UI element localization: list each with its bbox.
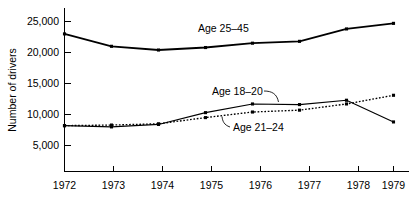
annotation-age-18-20: Age 18–20	[212, 85, 279, 102]
data-point-marker	[204, 116, 207, 119]
x-tick-label-1973: 1973	[102, 179, 126, 191]
data-point-marker	[251, 42, 254, 45]
x-tick-label-1977: 1977	[298, 179, 322, 191]
annotation-age-25-45: Age 25–45	[198, 22, 249, 34]
data-point-marker	[157, 122, 160, 125]
data-point-marker	[298, 109, 301, 112]
line-chart-figure: 5,000 10,000 15,000 20,000 25,000 1972 1…	[0, 0, 419, 203]
annotation-leader-age-18-20	[264, 91, 279, 102]
x-tick-label-1974: 1974	[151, 179, 175, 191]
chart-canvas: 5,000 10,000 15,000 20,000 25,000 1972 1…	[0, 0, 419, 203]
y-tick-label-5000: 5,000	[33, 139, 59, 151]
x-tick-label-1979: 1979	[382, 179, 406, 191]
data-point-marker	[157, 48, 160, 51]
data-point-marker	[298, 103, 301, 106]
data-point-marker	[110, 45, 113, 48]
data-point-marker	[204, 46, 207, 49]
series-layer	[63, 22, 395, 129]
x-tick-labels: 1972 1973 1974 1975 1976 1977 1978 1979	[53, 179, 406, 191]
data-point-marker	[392, 22, 395, 25]
annotation-label-age-25-45: Age 25–45	[198, 22, 249, 34]
data-point-marker	[63, 124, 66, 127]
series-line	[65, 100, 394, 127]
data-point-marker	[63, 32, 66, 35]
annotation-leader-age-21-24	[222, 117, 230, 128]
y-tick-label-10000: 10,000	[27, 108, 59, 120]
data-point-marker	[298, 40, 301, 43]
x-tick-label-1972: 1972	[53, 179, 77, 191]
data-point-marker	[110, 123, 113, 126]
annotation-label-age-18-20: Age 18–20	[212, 85, 263, 97]
series-line	[65, 95, 394, 125]
x-tick-label-1975: 1975	[200, 179, 224, 191]
y-tick-label-25000: 25,000	[27, 15, 59, 27]
data-point-marker	[251, 102, 254, 105]
data-point-marker	[251, 110, 254, 113]
data-point-marker	[345, 27, 348, 30]
x-tick-label-1976: 1976	[249, 179, 273, 191]
data-point-marker	[204, 111, 207, 114]
x-tick-marks	[65, 166, 394, 172]
x-tick-label-1978: 1978	[347, 179, 371, 191]
annotation-label-age-21-24: Age 21–24	[233, 121, 284, 133]
y-axis-title: Number of drivers	[6, 48, 18, 131]
annotation-age-21-24: Age 21–24	[222, 117, 284, 134]
y-tick-label-15000: 15,000	[27, 77, 59, 89]
data-point-marker	[392, 120, 395, 123]
data-point-marker	[345, 102, 348, 105]
data-point-marker	[345, 99, 348, 102]
data-point-marker	[392, 94, 395, 97]
y-tick-label-20000: 20,000	[27, 46, 59, 58]
y-tick-labels: 5,000 10,000 15,000 20,000 25,000	[27, 15, 59, 151]
